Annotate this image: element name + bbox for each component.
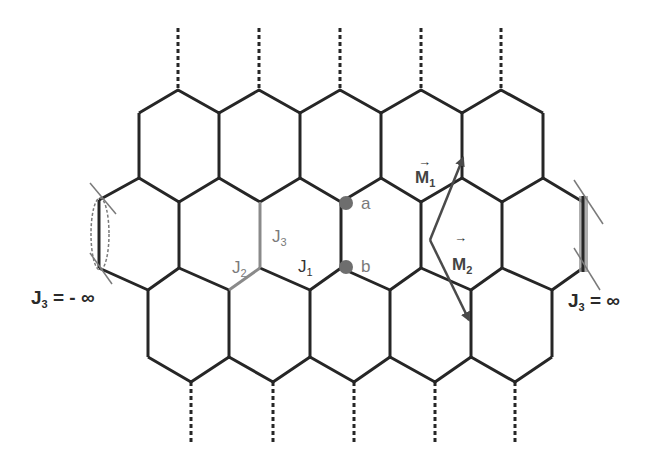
lattice-bonds <box>99 90 583 382</box>
site-b-label: b <box>361 257 370 277</box>
site-a <box>339 196 353 210</box>
honeycomb-diagram: a b J3 J2 J1 → M1 → M2 J3 = - ∞ J3 = ∞ <box>0 0 655 459</box>
right-edge-label: J3 = ∞ <box>568 290 620 313</box>
dashed-bonds-top <box>178 28 501 88</box>
lattice-svg <box>0 0 655 459</box>
left-edge-label: J3 = - ∞ <box>31 287 95 310</box>
m1-label: M1 <box>415 168 435 189</box>
coupling-j2-label: J2 <box>232 258 247 279</box>
left-edge-spins <box>90 183 116 284</box>
site-a-label: a <box>361 194 370 214</box>
m2-label: M2 <box>452 255 472 276</box>
coupling-j1-label: J1 <box>298 257 313 278</box>
arrow-m2 <box>430 240 469 320</box>
dashed-bonds-bottom <box>191 382 515 442</box>
m1-vector-arrow: → <box>418 154 431 169</box>
right-edge-spins <box>574 180 603 290</box>
m2-vector-arrow: → <box>454 230 467 245</box>
coupling-j3-label: J3 <box>272 227 287 248</box>
site-b <box>339 260 353 274</box>
